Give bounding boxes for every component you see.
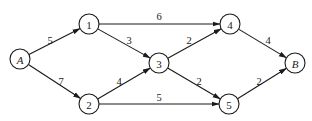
node-A: A — [10, 49, 30, 69]
node-label: 1 — [86, 19, 92, 31]
edge-A-2 — [28, 64, 80, 98]
edge-weight-label: 5 — [156, 92, 161, 103]
edge-3-4 — [168, 29, 221, 58]
node-3: 3 — [149, 53, 169, 73]
edge-2-3 — [98, 68, 151, 99]
edge-weight-label: 2 — [186, 35, 191, 46]
edge-3-5 — [168, 68, 221, 99]
edge-1-3 — [98, 29, 151, 58]
edge-weight-label: 4 — [116, 76, 122, 87]
node-label: 2 — [86, 99, 92, 111]
node-label: 3 — [156, 58, 162, 70]
node-2: 2 — [79, 94, 99, 114]
edge-weight-label: 4 — [265, 35, 271, 46]
edge-5-B — [237, 68, 286, 98]
node-1: 1 — [79, 14, 99, 34]
node-label: 4 — [227, 19, 233, 31]
node-5: 5 — [219, 94, 239, 114]
node-4: 4 — [220, 14, 240, 34]
edge-weight-label: 2 — [256, 76, 261, 87]
node-B: B — [285, 53, 305, 73]
edge-4-B — [239, 29, 287, 58]
node-label: B — [292, 58, 299, 70]
edge-weight-label: 6 — [156, 11, 161, 22]
network-diagram: 5763452242 A12345B — [0, 0, 312, 121]
edge-weight-label: 2 — [196, 76, 201, 87]
node-label: A — [16, 54, 24, 66]
node-label: 5 — [226, 99, 232, 111]
edge-A-1 — [29, 29, 80, 55]
edge-weight-label: 5 — [47, 35, 52, 46]
edge-weight-label: 3 — [126, 35, 131, 46]
edge-weight-label: 7 — [58, 76, 63, 87]
